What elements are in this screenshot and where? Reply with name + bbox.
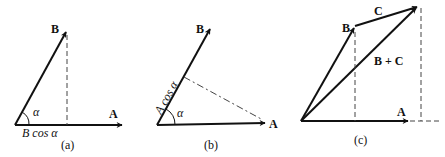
label-c: C [374,4,383,18]
projection-label: B cos α [22,126,58,140]
angle-arc [166,109,175,125]
panel-c: B C B + C A (c) [301,4,440,147]
label-a: A [397,105,406,119]
caption-b: (b) [204,138,218,152]
label-a: A [269,117,278,131]
vector-projection-figure: B A α B cos α (a) B A α A cos α (b) B C … [0,0,445,157]
panel-b: B A α A cos α (b) [151,22,278,152]
projection-dashed-line [184,77,263,120]
vector-a-arrow [157,123,265,125]
label-b: B [196,22,204,36]
caption-a: (a) [61,138,74,152]
label-sum: B + C [374,54,404,68]
label-b: B [342,21,350,35]
angle-arc [22,112,29,125]
panel-a: B A α B cos α (a) [15,22,122,152]
vector-b-arrow [301,28,354,121]
caption-c: (c) [354,133,367,147]
label-b: B [51,22,59,36]
angle-alpha: α [177,106,184,120]
angle-alpha: α [33,105,40,119]
label-a: A [109,107,118,121]
vector-b-arrow [15,32,66,125]
